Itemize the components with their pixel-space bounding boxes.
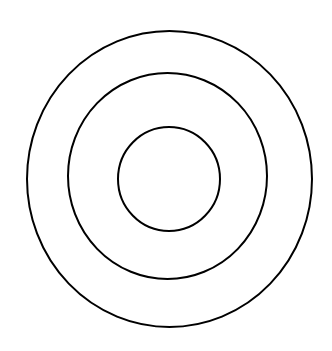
outer-circle (27, 31, 312, 327)
diagram-canvas (0, 0, 332, 351)
middle-circle (68, 73, 267, 279)
inner-circle (118, 127, 220, 231)
concentric-circles-diagram (0, 0, 332, 351)
